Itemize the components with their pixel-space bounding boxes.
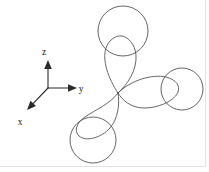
circle-top-lobe: [98, 6, 148, 56]
orbital-lobes-group: [76, 36, 178, 139]
circle-lower-left-lobe: [70, 117, 116, 163]
y-axis-label: y: [79, 84, 84, 94]
z-axis-label: z: [42, 47, 46, 57]
lobe-up-z-path: [105, 36, 136, 93]
z-axis-arrowhead: [44, 60, 52, 69]
lobe-lower-left-x-path: [76, 93, 118, 139]
x-axis-label: x: [18, 117, 23, 127]
orbital-figure: z y x: [0, 0, 209, 172]
coordinate-axes-group: [27, 60, 77, 110]
circle-right-lobe: [161, 68, 203, 110]
x-axis-line: [32, 88, 48, 105]
y-axis-arrowhead: [68, 84, 77, 92]
orbital-circles-group: [70, 6, 203, 163]
figure-frame: [0, 0, 206, 167]
lobe-right-y-path: [118, 76, 179, 108]
orbital-diagram-svg: z y x: [0, 0, 209, 172]
